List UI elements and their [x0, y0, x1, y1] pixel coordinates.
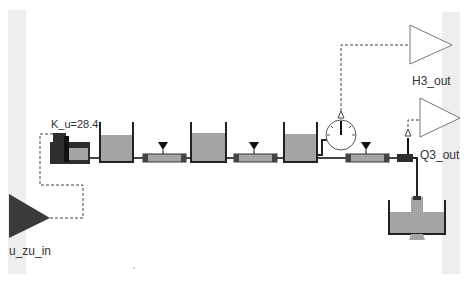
valve-2[interactable] [234, 142, 277, 162]
sink-tank[interactable] [389, 196, 445, 240]
outport-q3-out[interactable] [420, 98, 460, 137]
tank-2[interactable] [191, 122, 226, 162]
outport-h3-label: H3_out [412, 74, 451, 88]
flow-sensor[interactable] [397, 138, 413, 162]
level-gauge[interactable] [326, 120, 356, 150]
diagram-canvas [0, 0, 467, 284]
pump-block[interactable] [50, 133, 90, 164]
tank-1[interactable] [100, 122, 133, 162]
signal-line-h3[interactable] [341, 45, 410, 116]
inport-label: u_zu_in [9, 244, 51, 258]
inport-u-zu-in[interactable] [9, 194, 50, 238]
pump-gain-label: K_u=28.4 [51, 118, 98, 130]
outport-h3-out[interactable] [410, 25, 452, 64]
signal-line-q3[interactable] [408, 120, 420, 132]
artifact-dot [133, 267, 135, 269]
tank-3[interactable] [284, 122, 330, 162]
valve-1[interactable] [143, 142, 186, 162]
outport-q3-label: Q3_out [420, 148, 459, 162]
